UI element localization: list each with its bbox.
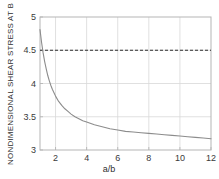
x-tick-label: 12	[206, 153, 216, 163]
x-axis-title: a/b	[103, 164, 116, 174]
x-tick-label: 6	[115, 153, 120, 163]
chart-figure: 24681012 33.544.55 a/b NONDIMENSIONAL SH…	[0, 0, 219, 179]
x-tick-label: 8	[146, 153, 151, 163]
x-tick-label: 2	[53, 153, 58, 163]
y-tick-label: 4.5	[23, 45, 36, 55]
y-tick-label: 3	[31, 145, 36, 155]
y-tick-label: 4	[31, 79, 36, 89]
y-axis-title: NONDIMENSIONAL SHEAR STRESS AT B	[6, 3, 15, 165]
shear-stress-line-chart: 24681012 33.544.55 a/b NONDIMENSIONAL SH…	[0, 0, 219, 179]
y-tick-label: 5	[31, 12, 36, 22]
x-tick-label: 4	[84, 153, 89, 163]
x-tick-label: 10	[175, 153, 185, 163]
y-tick-label: 3.5	[23, 112, 36, 122]
